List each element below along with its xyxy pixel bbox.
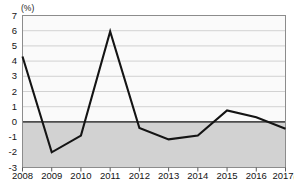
y-tick-label: 3 [3, 72, 17, 82]
x-tick-label: 2014 [187, 170, 208, 181]
x-tick-label: 2009 [41, 170, 62, 181]
y-tick-label: 6 [3, 26, 17, 36]
line-chart: (%) 76543210-1-2-3 200820092010201120122… [0, 0, 294, 192]
x-tick-label-text: 2017 [272, 170, 293, 181]
negative-region-fill [23, 122, 286, 168]
x-tick-label: 2012 [129, 170, 150, 181]
x-tick-label-text: 2008 [12, 170, 33, 181]
y-tick-label: 1 [3, 102, 17, 112]
y-tick-label: 0 [3, 117, 17, 127]
x-tick-label: 2017(年) [272, 170, 294, 181]
x-tick-label: 2015 [216, 170, 237, 181]
chart-plot-area [0, 0, 294, 192]
y-tick-label: 7 [3, 11, 17, 21]
x-tick-label-text: 2015 [216, 170, 237, 181]
y-axis-tick-labels: 76543210-1-2-3 [0, 0, 17, 192]
x-tick-label: 2011 [100, 170, 120, 181]
x-tick-label-text: 2012 [129, 170, 150, 181]
y-tick-label: -1 [3, 132, 17, 142]
x-tick-label-text: 2009 [41, 170, 62, 181]
x-tick-label-text: 2014 [187, 170, 208, 181]
x-tick-label: 2016 [246, 170, 267, 181]
y-axis-unit-label: (%) [21, 3, 34, 13]
x-tick-label: 2008 [12, 170, 33, 181]
y-tick-label: 2 [3, 87, 17, 97]
x-tick-label-text: 2010 [70, 170, 91, 181]
y-tick-label: 4 [3, 56, 17, 66]
y-tick-label: 5 [3, 41, 17, 51]
x-tick-label-text: 2013 [158, 170, 179, 181]
x-tick-label-text: 2011 [100, 170, 120, 181]
x-tick-label-text: 2016 [246, 170, 267, 181]
y-tick-label: -2 [3, 148, 17, 158]
x-tick-label: 2013 [158, 170, 179, 181]
x-tick-label: 2010 [70, 170, 91, 181]
